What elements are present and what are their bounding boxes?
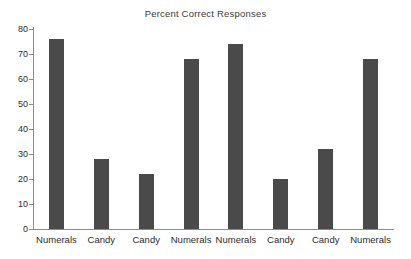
y-axis-tick-label: 20 [2, 174, 28, 184]
bar-chart: Percent Correct Responses 01020304050607… [0, 0, 411, 259]
y-axis-tick-labels: 01020304050607080 [0, 0, 28, 259]
bar [363, 59, 378, 229]
y-axis-tick-mark [29, 154, 33, 155]
y-axis-tick-mark [29, 104, 33, 105]
bar [273, 179, 288, 229]
y-axis-tick-label: 30 [2, 149, 28, 159]
y-axis-tick-label: 80 [2, 24, 28, 34]
y-axis-tick-label: 40 [2, 124, 28, 134]
bar [228, 44, 243, 229]
x-axis-tick-label: Candy [267, 234, 294, 245]
bar [318, 149, 333, 229]
chart-title: Percent Correct Responses [0, 8, 411, 19]
y-axis-tick-mark [29, 79, 33, 80]
x-axis-tick-label: Candy [132, 234, 159, 245]
y-axis-tick-label: 0 [2, 224, 28, 234]
y-axis-tick-label: 60 [2, 74, 28, 84]
x-axis-line [33, 229, 394, 230]
y-axis-tick-mark [29, 204, 33, 205]
y-axis-tick-mark [29, 129, 33, 130]
y-axis-tick-label: 70 [2, 49, 28, 59]
y-axis-tick-mark [29, 29, 33, 30]
x-axis-tick-label: Candy [88, 234, 115, 245]
y-axis-tick-mark [29, 179, 33, 180]
x-axis-tick-label: Numerals [350, 234, 391, 245]
y-axis-tick-label: 10 [2, 199, 28, 209]
y-axis-tick-mark [29, 229, 33, 230]
plot-area [34, 29, 393, 229]
bar [94, 159, 109, 229]
bar [139, 174, 154, 229]
y-axis-tick-mark [29, 54, 33, 55]
y-axis-tick-label: 50 [2, 99, 28, 109]
x-axis-tick-label: Numerals [216, 234, 257, 245]
bar [49, 39, 64, 229]
x-axis-tick-label: Numerals [36, 234, 77, 245]
x-axis-tick-label: Numerals [171, 234, 212, 245]
x-axis-tick-label: Candy [312, 234, 339, 245]
bar [184, 59, 199, 229]
